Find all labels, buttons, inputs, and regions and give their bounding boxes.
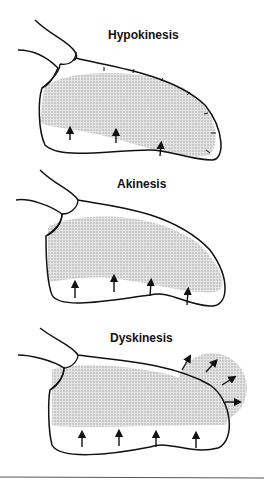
hypokinesis-ventricle	[18, 20, 221, 160]
akinesis-ventricle	[16, 170, 225, 306]
ventricle-diagram	[0, 0, 266, 484]
bottom-rule	[0, 477, 264, 478]
dyskinesis-ventricle	[18, 328, 247, 455]
